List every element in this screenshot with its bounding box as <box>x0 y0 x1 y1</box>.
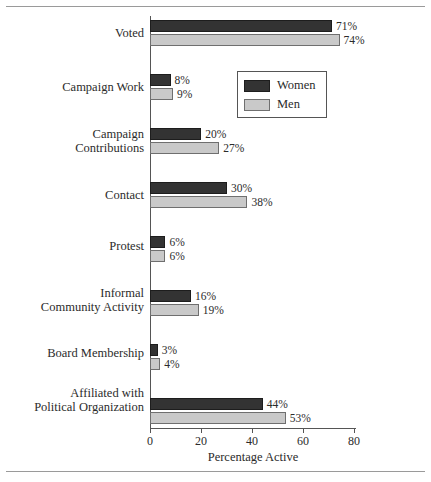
category-label-voted: Voted <box>0 26 144 40</box>
bar-value-men: 19% <box>199 304 224 316</box>
bar-men[interactable] <box>150 88 173 100</box>
bar-row-women: 3% <box>150 344 355 356</box>
bar-value-men: 38% <box>247 196 272 208</box>
bar-value-men: 9% <box>173 88 192 100</box>
bar-row-women: 44% <box>150 398 355 410</box>
x-tick-label-80: 80 <box>334 434 374 449</box>
bar-value-women: 16% <box>191 290 216 302</box>
bar-value-women: 44% <box>263 398 288 410</box>
bar-value-men: 6% <box>165 250 184 262</box>
bar-women[interactable] <box>150 128 201 140</box>
bar-value-men: 53% <box>286 412 311 424</box>
bar-value-women: 3% <box>158 344 177 356</box>
bar-women[interactable] <box>150 20 332 32</box>
x-axis-title: Percentage Active <box>150 450 356 465</box>
legend: Women Men <box>237 71 327 118</box>
bar-value-women: 71% <box>332 20 357 32</box>
x-tick-20 <box>201 429 202 433</box>
bar-row-women: 30% <box>150 182 355 194</box>
bottom-divider-rule <box>6 471 425 472</box>
top-divider-rule <box>6 6 425 7</box>
x-tick-label-0: 0 <box>130 434 170 449</box>
bar-row-men: 53% <box>150 412 355 424</box>
x-tick-label-60: 60 <box>283 434 323 449</box>
bar-row-women: 6% <box>150 236 355 248</box>
bar-men[interactable] <box>150 358 160 370</box>
bar-men[interactable] <box>150 142 219 154</box>
legend-swatch-women-icon <box>244 80 270 92</box>
bar-women[interactable] <box>150 182 227 194</box>
bar-value-women: 30% <box>227 182 252 194</box>
bar-group-campaign-contributions: 20% 27% <box>150 128 355 156</box>
category-label-board-membership: Board Membership <box>0 346 144 360</box>
bar-row-men: 38% <box>150 196 355 208</box>
bar-value-men: 74% <box>340 34 365 46</box>
bar-men[interactable] <box>150 304 199 316</box>
category-label-protest: Protest <box>0 239 144 253</box>
bar-row-men: 6% <box>150 250 355 262</box>
bar-men[interactable] <box>150 250 165 262</box>
bar-row-men: 4% <box>150 358 355 370</box>
bar-women[interactable] <box>150 398 263 410</box>
bar-row-men: 74% <box>150 34 355 46</box>
bar-value-men: 27% <box>219 142 244 154</box>
bar-row-women: 16% <box>150 290 355 302</box>
bar-men[interactable] <box>150 196 247 208</box>
bar-row-women: 71% <box>150 20 355 32</box>
legend-swatch-men-icon <box>244 99 270 111</box>
bar-group-affiliated-political-organization: 44% 53% <box>150 398 355 426</box>
bar-row-men: 19% <box>150 304 355 316</box>
legend-item-women[interactable]: Women <box>244 77 320 94</box>
bar-value-men: 4% <box>160 358 179 370</box>
bar-group-voted: 71% 74% <box>150 20 355 48</box>
x-tick-80 <box>354 429 355 433</box>
x-tick-40 <box>252 429 253 433</box>
bar-row-men: 27% <box>150 142 355 154</box>
bar-men[interactable] <box>150 412 286 424</box>
x-tick-label-20: 20 <box>181 434 221 449</box>
bar-group-informal-community-activity: 16% 19% <box>150 290 355 318</box>
bar-women[interactable] <box>150 290 191 302</box>
bar-group-protest: 6% 6% <box>150 236 355 264</box>
bar-value-women: 8% <box>171 74 190 86</box>
legend-item-men[interactable]: Men <box>244 96 320 113</box>
x-tick-0 <box>150 429 151 433</box>
category-label-campaign-contributions: Campaign Contributions <box>0 127 144 155</box>
category-label-contact: Contact <box>0 188 144 202</box>
category-label-affiliated-political-organization: Affiliated with Political Organization <box>0 386 144 414</box>
category-label-informal-community-activity: Informal Community Activity <box>0 286 144 314</box>
bar-women[interactable] <box>150 74 171 86</box>
legend-label-women: Women <box>277 79 316 92</box>
bar-women[interactable] <box>150 236 165 248</box>
bar-group-contact: 30% 38% <box>150 182 355 210</box>
x-axis-line <box>150 428 356 429</box>
legend-label-men: Men <box>277 98 300 111</box>
figure-container: Voted Campaign Work Campaign Contributio… <box>0 0 431 482</box>
x-tick-label-40: 40 <box>232 434 272 449</box>
bar-women[interactable] <box>150 344 158 356</box>
x-tick-60 <box>303 429 304 433</box>
bar-group-board-membership: 3% 4% <box>150 344 355 372</box>
bar-value-women: 6% <box>165 236 184 248</box>
bar-row-women: 20% <box>150 128 355 140</box>
bar-men[interactable] <box>150 34 340 46</box>
bar-value-women: 20% <box>201 128 226 140</box>
category-label-campaign-work: Campaign Work <box>0 80 144 94</box>
